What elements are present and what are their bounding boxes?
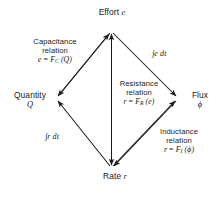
edge-rate-to-quantity [58,101,110,166]
inductance-formula-eq: = [167,145,176,154]
edge-label-integral-r-dt: ∫r dt [45,133,59,142]
tetrahedron-of-state-diagram: Effort e Quantity Q Flux ϕ Rate r Capaci… [0,0,222,197]
inductance-formula: r = FI (ϕ) [140,146,218,155]
resistance-formula-eq: = [127,97,136,106]
vertex-quantity-name: Quantity [14,90,46,100]
edge-label-integral-e-dt: ∫e dt [152,50,166,59]
vertex-flux-symbol: ϕ [198,100,202,109]
resistance-formula: r = FR (e) [102,98,176,107]
vertex-label-rate: Rate r [85,172,145,181]
vertex-label-flux: Flux ϕ [180,91,220,110]
vertex-label-quantity: Quantity Q [2,91,58,110]
vertex-effort-symbol: e [122,8,126,17]
inductance-line2: relation [140,137,218,146]
relation-label-capacitance: Capacitance relation e = FC (Q) [17,38,93,65]
resistance-line2: relation [102,89,176,98]
vertex-quantity-symbol: Q [27,100,33,109]
capacitance-line2: relation [17,47,93,56]
vertex-flux-name: Flux [192,90,208,100]
relation-label-inductance: Inductance relation r = FI (ϕ) [140,128,218,155]
capacitance-formula-arg: (Q) [59,55,72,64]
relation-label-resistance: Resistance relation r = FR (e) [102,80,176,107]
vertex-effort-name: Effort [99,7,119,17]
vertex-rate-name: Rate [103,171,121,181]
vertex-label-effort: Effort e [82,8,142,17]
inductance-formula-arg: (ϕ) [183,145,195,154]
vertex-rate-symbol: r [124,172,127,181]
capacitance-formula: e = FC (Q) [17,56,93,65]
resistance-formula-arg: (e) [144,97,155,106]
capacitance-formula-eq: = [42,55,51,64]
